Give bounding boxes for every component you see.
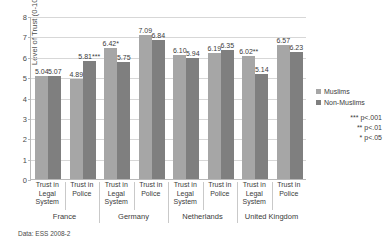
source-note: Data: ESS 2008-2 — [18, 230, 70, 237]
y-axis-tick-label: 5 — [23, 74, 27, 83]
significance-line-3: * p<.05 — [316, 133, 382, 143]
bar-group: 6.02**5.14 — [238, 17, 273, 179]
x-axis-divider — [272, 182, 273, 210]
bar-value-label: 6.19 — [207, 45, 221, 52]
plot-area: Level of Trust (0-10) 012345678 5.045.07… — [30, 17, 306, 180]
bar-non-muslims: 6.23 — [290, 52, 303, 179]
x-axis-category-line: System — [99, 198, 134, 207]
legend: Muslims Non-Muslims — [316, 88, 365, 110]
x-axis-category-label: Trust inLegalSystem — [237, 181, 272, 207]
x-axis-category-line: Legal — [30, 190, 65, 199]
x-axis-category-line: Legal — [237, 190, 272, 199]
bar-non-muslims: 5.94 — [186, 58, 199, 179]
y-axis-tick-label: 7 — [23, 33, 27, 42]
chart-figure: Level of Trust (0-10) 012345678 5.045.07… — [0, 0, 392, 246]
bar-group: 4.895.81*** — [66, 17, 101, 179]
bar-group: 6.42*5.75 — [100, 17, 135, 179]
x-axis-category-line: Legal — [99, 190, 134, 199]
bar-group: 6.576.23 — [273, 17, 308, 179]
bar-non-muslims: 5.75 — [117, 62, 130, 179]
bar-value-label: 5.04 — [35, 68, 49, 75]
bar-value-label: 5.94 — [186, 50, 200, 57]
x-axis-category-line: Police — [203, 190, 238, 199]
legend-item-muslims: Muslims — [316, 88, 365, 95]
x-axis-category-label: Trust inPolice — [272, 181, 307, 198]
x-axis-category-line: Trust in — [99, 181, 134, 190]
bar-value-label: 6.35 — [220, 42, 234, 49]
bar-non-muslims: 6.84 — [152, 40, 165, 179]
bar-non-muslims: 5.07 — [48, 76, 61, 179]
x-axis-group-labels: FranceGermanyNetherlandsUnited Kingdom — [30, 210, 306, 226]
bar-value-label: 6.42* — [103, 40, 119, 47]
bar-value-label: 6.57 — [276, 37, 290, 44]
bar-value-label: 6.23 — [289, 44, 303, 51]
x-axis-group-divider — [237, 210, 238, 223]
bar-value-label: 5.07 — [48, 68, 62, 75]
bar-muslims: 6.10 — [173, 55, 186, 179]
x-axis-group-label: France — [30, 212, 99, 221]
bar-value-label: 6.02** — [239, 48, 258, 55]
bar-muslims: 6.02** — [242, 56, 255, 179]
bar-value-label: 5.81*** — [78, 53, 100, 60]
x-axis-category-label: Trust inPolice — [134, 181, 169, 198]
x-axis-category-line: Police — [65, 190, 100, 199]
x-axis-group-divider — [99, 210, 100, 223]
x-axis-category-label: Trust inLegalSystem — [168, 181, 203, 207]
y-axis-tick-label: 1 — [23, 155, 27, 164]
bar-muslims: 6.57 — [277, 45, 290, 179]
x-axis-divider — [99, 182, 100, 210]
x-axis-divider — [65, 182, 66, 210]
bar-muslims: 4.89 — [70, 79, 83, 179]
y-axis-tick-label: 8 — [23, 13, 27, 22]
y-axis-tick-label: 4 — [23, 94, 27, 103]
bar-value-label: 5.14 — [255, 66, 269, 73]
bar-muslims: 6.19 — [208, 53, 221, 179]
bar-non-muslims: 6.35 — [221, 50, 234, 179]
x-axis-group-divider — [168, 210, 169, 223]
x-axis-category-line: Police — [134, 190, 169, 199]
cropped-title-fragment — [26, 0, 226, 5]
bar-group: 5.045.07 — [31, 17, 66, 179]
bar-value-label: 4.89 — [69, 71, 83, 78]
bar-non-muslims: 5.14 — [255, 74, 268, 179]
bar-non-muslims: 5.81*** — [83, 61, 96, 179]
legend-swatch-muslims — [316, 89, 321, 94]
x-axis-category-line: Trust in — [272, 181, 307, 190]
x-axis-category-line: Trust in — [168, 181, 203, 190]
x-axis-category-line: Trust in — [30, 181, 65, 190]
y-axis-tick-label: 0 — [23, 176, 27, 185]
bar-muslims: 6.42* — [104, 48, 117, 179]
x-axis-category-label: Trust inPolice — [203, 181, 238, 198]
significance-line-1: *** p<.001 — [316, 113, 382, 123]
x-axis-divider — [168, 182, 169, 210]
x-axis-group-label: United Kingdom — [237, 212, 306, 221]
x-axis-divider — [237, 182, 238, 210]
x-axis-category-line: System — [30, 198, 65, 207]
bar-group: 7.096.84 — [135, 17, 170, 179]
legend-item-non-muslims: Non-Muslims — [316, 99, 365, 106]
x-axis-category-line: System — [237, 198, 272, 207]
x-axis-group-label: Germany — [99, 212, 168, 221]
x-axis-group-label: Netherlands — [168, 212, 237, 221]
x-axis-category-line: Trust in — [134, 181, 169, 190]
x-axis-category-label: Trust inLegalSystem — [30, 181, 65, 207]
x-axis-divider — [134, 182, 135, 210]
bar-value-label: 6.84 — [151, 32, 165, 39]
bar-value-label: 5.75 — [117, 54, 131, 61]
bar-muslims: 5.04 — [35, 76, 48, 179]
y-axis-tick-label: 6 — [23, 53, 27, 62]
y-axis-tick-label: 3 — [23, 114, 27, 123]
y-axis-tick-label: 2 — [23, 135, 27, 144]
bar-group: 6.196.35 — [204, 17, 239, 179]
bar-value-label: 7.09 — [138, 27, 152, 34]
bar-series-container: 5.045.074.895.81***6.42*5.757.096.846.10… — [31, 17, 306, 179]
legend-label-muslims: Muslims — [324, 88, 350, 95]
bar-muslims: 7.09 — [139, 35, 152, 179]
bar-group: 6.105.94 — [169, 17, 204, 179]
x-axis-category-label: Trust inLegalSystem — [99, 181, 134, 207]
x-axis-category-line: Legal — [168, 190, 203, 199]
x-axis-category-line: System — [168, 198, 203, 207]
x-axis-category-line: Police — [272, 190, 307, 199]
x-axis-divider — [203, 182, 204, 210]
x-axis-category-label: Trust inPolice — [65, 181, 100, 198]
